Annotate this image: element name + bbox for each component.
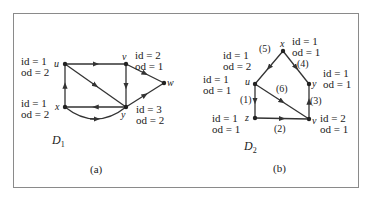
d2-edge-label-3: (3) — [310, 96, 322, 106]
d2-node-x: x — [280, 39, 284, 49]
d2-degree-x: id = 1od = 1 — [292, 36, 320, 58]
d1-node-w: w — [167, 78, 174, 88]
d1-graph-name: D1 — [52, 133, 65, 149]
d2-node-z: z — [245, 113, 249, 123]
d2-degree-extra: id = 1od = 1 — [203, 74, 231, 96]
d2-edge-label-2: (2) — [274, 124, 286, 134]
d2-node-v: v — [312, 116, 316, 126]
d2-degree-v: id = 2od = 1 — [320, 113, 348, 135]
d1-node-x: x — [55, 102, 59, 112]
d1-degree-x: id = 1od = 2 — [21, 98, 49, 120]
d2-edge-label-5: (5) — [259, 44, 271, 54]
d2-edge-label-6: (6) — [276, 84, 288, 94]
caption-a: (a) — [90, 163, 102, 175]
d2-node-u: u — [245, 77, 250, 87]
d1-node-y: y — [121, 110, 125, 120]
d2-edge-label-1: (1) — [240, 95, 252, 105]
d2-edge-label-4: (4) — [297, 59, 309, 69]
d1-degree-y: id = 3od = 2 — [136, 104, 164, 126]
d2-graph-name: D2 — [244, 139, 257, 155]
d1-degree-u: id = 1od = 2 — [21, 56, 49, 78]
d2-degree-u: id = 1od = 2 — [223, 50, 251, 72]
d2-degree-z: id = 1od = 1 — [212, 113, 240, 135]
d2-degree-y: id = 1od = 1 — [323, 68, 351, 90]
d1-node-v: v — [122, 52, 126, 62]
caption-b: (b) — [273, 162, 286, 174]
d1-node-u: u — [54, 59, 59, 69]
d1-degree-v: id = 2od = 1 — [135, 50, 163, 72]
d2-node-y: y — [312, 79, 316, 89]
